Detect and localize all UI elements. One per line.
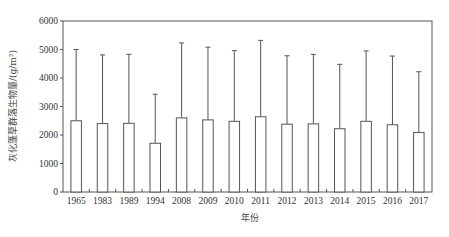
- bar-group-2015: [361, 51, 372, 192]
- bar: [361, 121, 372, 192]
- x-tick-label: 2014: [330, 196, 349, 206]
- bar: [255, 117, 266, 192]
- x-tick-label: 2008: [172, 196, 191, 206]
- bar: [150, 143, 161, 192]
- y-tick-label: 0: [53, 187, 58, 197]
- bar-group-2013: [308, 54, 319, 192]
- x-tick-label: 2015: [357, 196, 376, 206]
- x-tick-label: 2013: [304, 196, 323, 206]
- x-axis-title: 年份: [241, 212, 259, 223]
- bar: [203, 120, 214, 192]
- x-tick-label: 2011: [251, 196, 270, 206]
- bar-group-1989: [124, 54, 134, 192]
- y-tick-label: 3000: [39, 102, 58, 112]
- y-tick-label: 1000: [39, 159, 58, 169]
- x-tick-label: 1983: [93, 196, 112, 206]
- x-tick-label: 1989: [119, 196, 138, 206]
- x-tick-label: 2009: [198, 196, 217, 206]
- bar: [71, 121, 82, 192]
- bar-group-2010: [229, 51, 240, 192]
- bar-group-1994: [150, 94, 161, 192]
- bar: [414, 132, 425, 192]
- bar-group-2014: [335, 64, 346, 192]
- plot-frame: [63, 21, 432, 192]
- bar-group-2009: [203, 47, 214, 192]
- x-tick-label: 2012: [278, 196, 297, 206]
- bar: [335, 129, 346, 192]
- bar-group-2008: [176, 43, 187, 192]
- x-tick-label: 1965: [67, 196, 86, 206]
- bar-group-1983: [97, 55, 108, 192]
- y-tick-label: 6000: [39, 16, 58, 26]
- bar-chart: 0100020003000400050006000 19651983198919…: [0, 0, 449, 237]
- x-tick-label: 2010: [225, 196, 244, 206]
- y-axis: 0100020003000400050006000: [39, 16, 63, 197]
- bar-group-2012: [282, 56, 293, 192]
- bar: [97, 124, 108, 192]
- bar: [282, 124, 293, 192]
- bar: [308, 124, 319, 192]
- bar: [124, 123, 134, 192]
- y-axis-title: 灰化蓬草群落生物量/(g/m²): [7, 50, 18, 162]
- x-tick-label: 2017: [409, 196, 428, 206]
- plot-area: [63, 21, 432, 192]
- bar-group-2011: [255, 40, 266, 192]
- bar: [387, 125, 398, 192]
- y-tick-label: 5000: [39, 45, 58, 55]
- y-tick-label: 2000: [39, 130, 58, 140]
- bar-group-1965: [71, 50, 82, 193]
- bar-group-2016: [387, 56, 398, 192]
- x-tick-label: 1994: [146, 196, 165, 206]
- x-tick-label: 2016: [383, 196, 402, 206]
- bar-group-2017: [414, 72, 425, 192]
- bar: [229, 121, 240, 192]
- bar: [176, 118, 187, 192]
- y-tick-label: 4000: [39, 73, 58, 83]
